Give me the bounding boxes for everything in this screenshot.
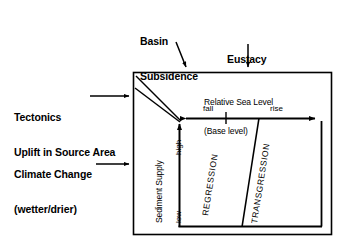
- tectonics-line1: Tectonics: [14, 112, 115, 124]
- eustacy-line1: Eustacy: [227, 54, 267, 66]
- climate-change-line2: (wetter/drier): [14, 204, 92, 216]
- basin-subsidence-label: Basin Subsidence: [140, 12, 198, 106]
- relative-sea-level-line1: Relative Sea Level: [204, 98, 273, 108]
- basin-subsidence-line1: Basin: [140, 36, 198, 48]
- basin-subsidence-line2: Subsidence: [140, 71, 198, 83]
- climate-change-label: Climate Change (wetter/drier): [14, 145, 92, 239]
- climate-change-line1: Climate Change: [14, 169, 92, 181]
- axis-label-rise: rise: [270, 105, 283, 114]
- relative-sea-level-line2: (Base level): [204, 127, 273, 137]
- diagram-canvas: Basin Subsidence Eustacy Tectonics Uplif…: [0, 0, 345, 246]
- axis-label-low: low: [175, 211, 184, 223]
- axis-label-high: high: [175, 140, 184, 155]
- axis-label-fall: fall: [203, 105, 213, 114]
- sediment-supply-axis-title: Sediment Supply: [155, 160, 165, 223]
